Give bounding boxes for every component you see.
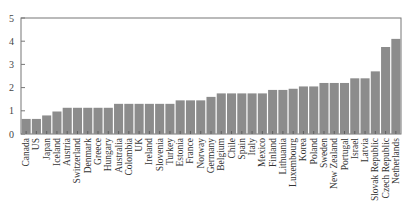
bar-chart: 012345 CanadaUSJapanIcelandAustriaSwitze… — [0, 0, 414, 217]
x-category-label: Poland — [309, 138, 319, 165]
y-tick-label: 1 — [9, 105, 14, 116]
x-category-label: Finland — [268, 138, 278, 167]
x-category-label: Czech Republic — [381, 138, 391, 198]
x-category-label: US — [31, 138, 41, 150]
bar — [63, 108, 72, 134]
bar — [330, 83, 339, 134]
bar — [217, 93, 226, 134]
bar — [299, 86, 308, 134]
bar — [176, 100, 185, 134]
bar — [93, 108, 102, 134]
bar — [135, 104, 144, 134]
bar — [206, 97, 215, 134]
x-category-label: Chile — [227, 138, 237, 159]
y-tick-label: 4 — [9, 36, 14, 47]
bar — [258, 93, 267, 134]
bar — [196, 100, 205, 134]
x-category-label: Iceland — [52, 138, 62, 166]
x-category-label: Slovak Republic — [370, 138, 380, 201]
x-category-label: Portugal — [340, 138, 350, 171]
x-category-label: Canada — [21, 137, 31, 166]
x-category-label: Latvia — [360, 137, 370, 162]
y-tick-label: 0 — [9, 129, 14, 140]
x-category-label: UK — [134, 138, 144, 152]
bar — [124, 104, 133, 134]
x-category-label: Ireland — [144, 138, 154, 165]
x-category-label: Slovenia — [155, 137, 165, 171]
bar — [237, 93, 246, 134]
x-category-label: Turkey — [165, 138, 175, 165]
x-category-label: Spain — [237, 138, 247, 160]
x-category-label: Sweden — [319, 138, 329, 168]
x-category-label: Greece — [93, 138, 103, 165]
bar — [83, 108, 92, 134]
bar — [268, 90, 277, 134]
x-category-label: Switzerland — [72, 138, 82, 184]
bar — [340, 83, 349, 134]
x-category-label: Colombia — [124, 137, 134, 175]
x-category-label: Netherlands — [391, 138, 401, 184]
x-category-label: Denmark — [83, 138, 93, 174]
bar — [309, 86, 318, 134]
x-category-label: Hungary — [103, 138, 113, 171]
bar — [104, 108, 113, 134]
x-category-label: France — [185, 138, 195, 164]
bar — [52, 111, 61, 134]
x-category-label: Estonia — [175, 137, 185, 166]
bar — [227, 93, 236, 134]
bar — [165, 104, 174, 134]
x-category-label: Israel — [350, 138, 360, 159]
y-tick-label: 5 — [9, 13, 14, 24]
x-category-label: Belgium — [216, 137, 226, 170]
y-tick-label: 3 — [9, 59, 14, 70]
x-category-label: Korea — [298, 137, 308, 161]
x-category-label: Italy — [247, 138, 257, 156]
bar — [248, 93, 257, 134]
bar — [278, 90, 287, 134]
x-category-label: Austria — [62, 137, 72, 166]
bar — [73, 108, 82, 134]
x-category-label: Australia — [114, 137, 124, 173]
bars — [22, 39, 401, 134]
bar — [114, 104, 123, 134]
x-category-label: New Zealand — [329, 138, 339, 189]
bar — [361, 78, 370, 134]
x-category-label: Japan — [42, 138, 52, 160]
bar — [350, 78, 359, 134]
x-category-label: Lithuania — [278, 137, 288, 174]
bar — [381, 47, 390, 134]
x-category-label: Norway — [196, 138, 206, 169]
x-axis-labels: CanadaUSJapanIcelandAustriaSwitzerlandDe… — [21, 137, 401, 201]
bar — [391, 39, 400, 134]
y-tick-label: 2 — [9, 82, 14, 93]
bar — [186, 100, 195, 134]
bar — [155, 104, 164, 134]
x-category-label: Mexico — [257, 138, 267, 167]
bar — [319, 83, 328, 134]
bar — [145, 104, 154, 134]
x-category-label: Luxembourg — [288, 138, 298, 187]
bar — [289, 89, 298, 134]
x-category-label: Germany — [206, 138, 216, 174]
bar — [371, 71, 380, 134]
